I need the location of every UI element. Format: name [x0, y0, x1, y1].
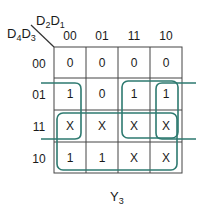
group-rows-11-10	[57, 113, 177, 170]
kmap-groupings	[0, 0, 202, 216]
output-sub: 3	[119, 196, 124, 206]
output-label: Y3	[110, 190, 124, 206]
group-wrap-left	[41, 83, 81, 139]
output-var: Y	[110, 189, 119, 204]
group-wrap-right	[156, 83, 196, 139]
group-cols-11-10	[122, 81, 178, 138]
